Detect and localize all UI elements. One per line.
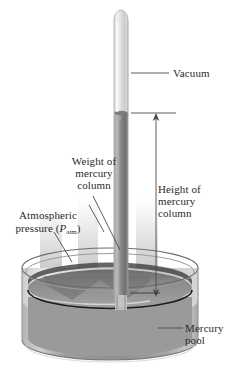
atm-pressure-subscript: atm bbox=[66, 228, 77, 236]
label-atmospheric-pressure: Atmosphericpressure (Patm) bbox=[4, 209, 92, 238]
label-mercury-pool: Mercury pool bbox=[185, 322, 224, 346]
atm-line2-suffix: ) bbox=[77, 222, 81, 234]
label-vacuum: Vacuum bbox=[173, 68, 210, 80]
label-height-of-mercury-column: Height of mercury column bbox=[158, 183, 201, 219]
atm-line2-prefix: pressure ( bbox=[15, 222, 59, 234]
barometer-figure: Vacuum Height of mercury column Weight o… bbox=[0, 0, 238, 384]
label-weight-of-mercury-column: Weight of mercury column bbox=[58, 155, 130, 191]
atm-line1: Atmospheric bbox=[19, 209, 77, 221]
